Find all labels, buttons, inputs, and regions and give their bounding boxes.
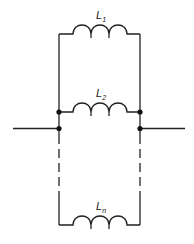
junction-dot [137,109,142,114]
inductor-l1-label: L1 [96,9,106,23]
inductor-l2 [59,103,140,116]
junction-dot [56,109,61,114]
inductor-l1 [59,25,140,38]
parallel-inductor-diagram: L1 L2 Ln [0,0,194,244]
junction-dot [137,126,142,131]
inductor-ln [59,216,140,229]
inductor-ln-label: Ln [96,200,106,214]
inductor-l2-label: L2 [96,87,106,101]
junction-dot [56,126,61,131]
